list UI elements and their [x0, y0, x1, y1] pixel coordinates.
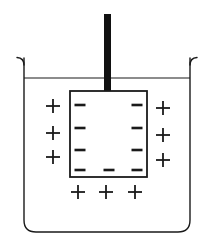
- minus-sign: [75, 149, 86, 152]
- minus-sign: [75, 127, 86, 130]
- minus-sign: [75, 104, 86, 107]
- minus-sign: [132, 104, 143, 107]
- minus-sign: [132, 149, 143, 152]
- minus-sign: [104, 169, 115, 172]
- minus-sign: [75, 169, 86, 172]
- minus-sign: [132, 169, 143, 172]
- minus-sign: [132, 127, 143, 130]
- diagram-canvas: [0, 0, 212, 246]
- electrode-rod: [104, 14, 111, 92]
- electrochemistry-diagram: [0, 0, 212, 246]
